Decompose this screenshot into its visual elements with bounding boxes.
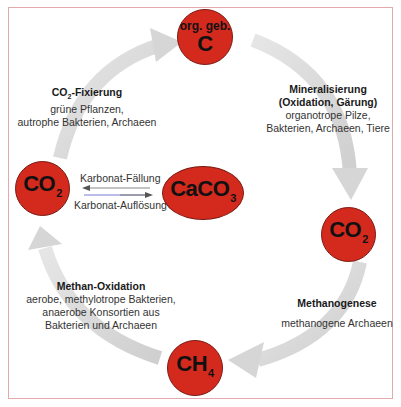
node-caco3-sub: 3 (230, 192, 236, 204)
node-organic-carbon: org. geb. C (177, 9, 233, 65)
label-mineralization-line-1: organotrope Pilze, (258, 109, 398, 122)
label-co2-fixation-title: CO2-Fixierung (12, 86, 162, 103)
label-methane-oxidation-title: Methan-Oxidation (12, 280, 190, 293)
arrow-carbonate-precipitation-icon (82, 185, 150, 191)
label-methane-oxidation-line-1: aerobe, methylotrope Bakterien, (12, 293, 190, 306)
label-mineralization-title-2: (Oxidation, Gärung) (258, 96, 398, 109)
node-ch4-main: CH (176, 351, 207, 376)
label-methane-oxidation-line-3: Bakterien und Archaeen (12, 319, 190, 332)
node-organic-carbon-small: org. geb. (180, 20, 231, 32)
node-co2-left-sub: 2 (56, 187, 62, 199)
label-mineralization-title-1: Mineralisierung (258, 83, 398, 96)
label-co2-fixation-line-2: autrophe Bakterien, Archaeen (12, 116, 162, 129)
node-co2-right: CO2 (321, 207, 376, 262)
arrow-carbonate-dissolution-icon (84, 192, 153, 198)
label-co2-fixation-line-1: grüne Pflanzen, (12, 103, 162, 116)
node-co2-left-main: CO (23, 171, 55, 196)
label-methanogenesis: Methanogenese methanogene Archaeen (278, 297, 396, 330)
label-carbonate-precipitation: Karbonat-Fällung (80, 172, 161, 184)
node-ch4-sub: 4 (208, 367, 214, 379)
node-co2-right-sub: 2 (362, 233, 368, 245)
label-co2-fixation: CO2-Fixierung grüne Pflanzen, autrophe B… (12, 86, 162, 129)
label-methane-oxidation: Methan-Oxidation aerobe, methylotrope Ba… (12, 280, 190, 332)
label-mineralization-line-2: Bakterien, Archaeen, Tiere (258, 122, 398, 135)
node-caco3-main: CaCO (170, 176, 229, 201)
node-co2-left: CO2 (15, 161, 70, 216)
label-carbonate-dissolution: Karbonat-Auflösung (74, 199, 167, 211)
label-methane-oxidation-line-2: anaerobe Konsortien aus (12, 306, 190, 319)
node-caco3: CaCO3 (162, 166, 244, 220)
node-ch4: CH4 (167, 340, 223, 396)
node-co2-right-main: CO (329, 217, 361, 242)
label-methanogenesis-title: Methanogenese (278, 297, 396, 310)
label-mineralization: Mineralisierung (Oxidation, Gärung) orga… (258, 83, 398, 135)
label-methanogenesis-line-1: methanogene Archaeen (278, 317, 396, 330)
node-organic-carbon-main: C (197, 33, 212, 55)
